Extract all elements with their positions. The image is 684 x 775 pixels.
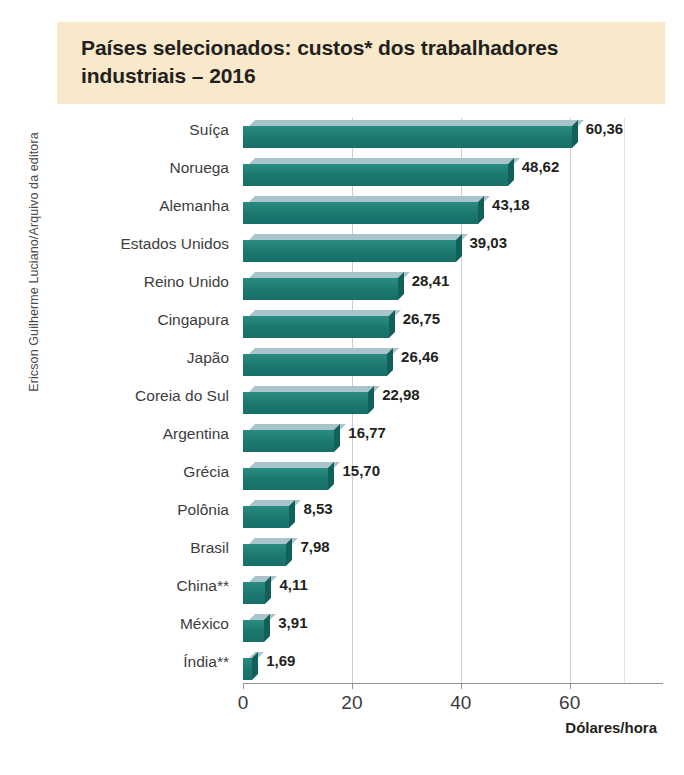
- chart-row: México3,91: [57, 606, 665, 644]
- chart-row: Japão26,46: [57, 340, 665, 378]
- bar[interactable]: [243, 272, 398, 294]
- bar[interactable]: [243, 196, 478, 218]
- bar[interactable]: [243, 500, 289, 522]
- bar-value-label: 26,46: [401, 348, 439, 365]
- category-label: Cingapura: [57, 311, 229, 329]
- category-label: Estados Unidos: [57, 235, 229, 253]
- bar-side-face: [398, 272, 404, 300]
- bar-value-label: 43,18: [492, 196, 530, 213]
- x-tick-label: 20: [330, 692, 374, 714]
- bar-value-label: 8,53: [303, 500, 332, 517]
- bar[interactable]: [243, 614, 264, 636]
- bar-value-label: 16,77: [348, 424, 386, 441]
- x-tick-label: 40: [439, 692, 483, 714]
- chart-row: Coreia do Sul22,98: [57, 378, 665, 416]
- chart-row: Estados Unidos39,03: [57, 226, 665, 264]
- chart-row: Índia**1,69: [57, 644, 665, 682]
- bar-value-label: 1,69: [266, 652, 295, 669]
- bar[interactable]: [243, 652, 252, 674]
- chart-row: Polônia8,53: [57, 492, 665, 530]
- bar-value-label: 60,36: [586, 120, 624, 137]
- chart-row: Grécia15,70: [57, 454, 665, 492]
- bar-value-label: 3,91: [278, 614, 307, 631]
- category-label: Alemanha: [57, 197, 229, 215]
- bar[interactable]: [243, 538, 286, 560]
- bar-side-face: [264, 614, 270, 642]
- category-label: Argentina: [57, 425, 229, 443]
- bar-front-face: [243, 468, 328, 490]
- bar[interactable]: [243, 424, 334, 446]
- chart-row: Argentina16,77: [57, 416, 665, 454]
- tick-mark: [570, 683, 571, 689]
- chart-row: Cingapura26,75: [57, 302, 665, 340]
- chart-figure: Ericson Guilherme Luciano/Arquivo da edi…: [0, 0, 684, 775]
- category-label: Suíça: [57, 121, 229, 139]
- bar[interactable]: [243, 234, 456, 256]
- bar-front-face: [243, 582, 265, 604]
- bar-side-face: [478, 196, 484, 224]
- bar-front-face: [243, 430, 334, 452]
- category-label: Reino Unido: [57, 273, 229, 291]
- bar-side-face: [456, 234, 462, 262]
- tick-mark: [352, 683, 353, 689]
- tick-mark: [243, 683, 244, 689]
- bar-front-face: [243, 620, 264, 642]
- x-axis-title: Dólares/hora: [565, 719, 657, 736]
- page-title: Países selecionados: custos* dos trabalh…: [81, 34, 601, 89]
- chart-row: Alemanha43,18: [57, 188, 665, 226]
- bar-front-face: [243, 658, 252, 680]
- bar-value-label: 48,62: [522, 158, 560, 175]
- bar[interactable]: [243, 310, 389, 332]
- bar-value-label: 4,11: [279, 576, 307, 593]
- bar-front-face: [243, 126, 572, 148]
- bar-value-label: 28,41: [412, 272, 450, 289]
- chart-row: China**4,11: [57, 568, 665, 606]
- bar-front-face: [243, 240, 456, 262]
- bar[interactable]: [243, 158, 508, 180]
- chart-row: Noruega48,62: [57, 150, 665, 188]
- category-label: Brasil: [57, 539, 229, 557]
- bar-front-face: [243, 506, 289, 528]
- tick-mark: [461, 683, 462, 689]
- chart-row: Brasil7,98: [57, 530, 665, 568]
- bar-front-face: [243, 278, 398, 300]
- bar-front-face: [243, 544, 286, 566]
- chart-row: Reino Unido28,41: [57, 264, 665, 302]
- bar[interactable]: [243, 576, 265, 598]
- bar-side-face: [387, 348, 393, 376]
- x-tick-label: 60: [548, 692, 592, 714]
- bar-side-face: [328, 462, 334, 490]
- bar[interactable]: [243, 348, 387, 370]
- x-axis-line: [243, 683, 663, 684]
- category-label: Índia**: [57, 653, 229, 671]
- bar-front-face: [243, 316, 389, 338]
- image-credit: Ericson Guilherme Luciano/Arquivo da edi…: [27, 132, 41, 392]
- bar-side-face: [368, 386, 374, 414]
- bar[interactable]: [243, 462, 328, 484]
- category-label: Coreia do Sul: [57, 387, 229, 405]
- bar-side-face: [252, 652, 258, 680]
- title-band: Países selecionados: custos* dos trabalh…: [57, 22, 665, 104]
- bar-front-face: [243, 392, 368, 414]
- bar-front-face: [243, 164, 508, 186]
- bar-front-face: [243, 202, 478, 224]
- category-label: México: [57, 615, 229, 633]
- bar[interactable]: [243, 386, 368, 408]
- bar-value-label: 39,03: [470, 234, 508, 251]
- category-label: Noruega: [57, 159, 229, 177]
- chart-row: Suíça60,36: [57, 112, 665, 150]
- bar-value-label: 22,98: [382, 386, 420, 403]
- category-label: China**: [57, 577, 229, 595]
- bar-side-face: [265, 576, 271, 604]
- bar[interactable]: [243, 120, 572, 142]
- bar-side-face: [334, 424, 340, 452]
- category-label: Grécia: [57, 463, 229, 481]
- bar-value-label: 15,70: [342, 462, 380, 479]
- category-label: Japão: [57, 349, 229, 367]
- x-tick-label: 0: [221, 692, 265, 714]
- bar-front-face: [243, 354, 387, 376]
- bar-side-face: [508, 158, 514, 186]
- bar-value-label: 26,75: [403, 310, 441, 327]
- bar-side-face: [389, 310, 395, 338]
- bar-side-face: [572, 120, 578, 148]
